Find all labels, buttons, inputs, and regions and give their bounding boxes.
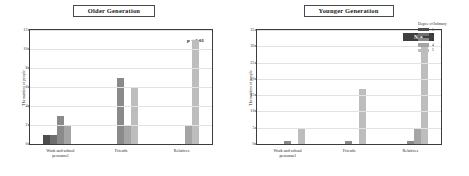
bar [43,135,50,145]
gridline [257,111,441,112]
legend-item: 2 [418,33,466,37]
x-axis-labels-right: Work and school personnelFriendsRelative… [257,144,441,158]
gridline [30,49,212,50]
legend-swatch [418,38,429,41]
x-axis-tick-label: Work and school personnel [31,148,89,158]
legend-label: 2 [432,33,434,37]
gridline [30,87,212,88]
legend-item: 5 [418,48,466,52]
y-tick-label: 0 [25,142,27,146]
panel-title-wrap-left: Older Generation [0,5,228,17]
bar [57,116,64,145]
plot-area-older-generation: p < 0.01 Work and school personnelFriend… [29,29,213,145]
y-tick-label: 20 [250,77,254,81]
gridline [30,106,212,107]
y-tick-mark [255,62,257,63]
y-tick-mark [28,144,30,145]
gridline [30,30,212,31]
y-tick-mark [255,127,257,128]
legend-title: Degree of Intimacy [418,22,466,26]
bar [414,128,421,144]
gridline [257,79,441,80]
y-tick-label: 35 [250,28,254,32]
gridline [30,125,212,126]
bar [421,43,428,144]
y-tick-mark [255,30,257,31]
gridline [257,46,441,47]
gridline [30,68,212,69]
y-tick-mark [28,125,30,126]
plot-area-younger-generation: N/A Work and school personnelFriendsRela… [256,29,442,145]
panel-title-wrap-right: Younger Generation [228,5,469,17]
legend-label: 4 [432,43,434,47]
bar [359,89,366,144]
y-tick-mark [28,49,30,50]
bar [50,135,57,145]
y-tick-mark [28,30,30,31]
bar [298,128,305,144]
legend-swatch [418,33,429,36]
x-axis-tick-label: Relatives [153,148,211,158]
bar [192,40,199,145]
x-axis-labels-left: Work and school personnelFriendsRelative… [30,144,212,158]
y-tick-label: 5 [252,126,254,130]
legend-item: 3 [418,38,466,42]
y-tick-mark [28,87,30,88]
y-tick-label: 8 [25,66,27,70]
legend-label: 5 [432,48,434,52]
y-tick-label: 0 [252,142,254,146]
y-tick-label: 10 [23,47,27,51]
legend-swatch [418,28,429,31]
y-tick-mark [28,68,30,69]
legend-label: 3 [432,38,434,42]
y-tick-mark [255,46,257,47]
y-tick-label: 10 [250,109,254,113]
y-tick-label: 25 [250,60,254,64]
figure-container: Older Generation The number of people p … [0,0,469,176]
gridline [257,63,441,64]
legend-item: 4 [418,43,466,47]
y-tick-mark [255,111,257,112]
panel-title-older-generation: Older Generation [73,5,155,17]
y-tick-mark [255,78,257,79]
bar [64,125,71,144]
y-tick-label: 15 [250,93,254,97]
y-tick-label: 12 [23,28,27,32]
legend-item: 1 [418,28,466,32]
y-tick-mark [255,95,257,96]
legend-items: 12345 [418,28,466,53]
gridline [257,95,441,96]
y-tick-label: 2 [25,123,27,127]
y-tick-mark [28,106,30,107]
legend-swatch [418,49,429,52]
y-tick-label: 6 [25,85,27,89]
legend: Degree of Intimacy 12345 [418,22,466,53]
bar [131,87,138,144]
y-tick-label: 4 [25,104,27,108]
bar [124,125,131,144]
panel-older-generation: Older Generation The number of people p … [0,0,228,176]
x-axis-tick-label: Friends [320,148,378,158]
bar [185,125,192,144]
gridline [257,30,441,31]
panel-title-younger-generation: Younger Generation [304,5,394,17]
y-tick-label: 30 [250,44,254,48]
x-axis-tick-label: Friends [92,148,150,158]
x-axis-tick-label: Work and school personnel [259,148,317,158]
x-axis-tick-label: Relatives [381,148,439,158]
y-tick-mark [255,144,257,145]
legend-swatch [418,43,429,46]
legend-label: 1 [432,28,434,32]
gridline [257,128,441,129]
